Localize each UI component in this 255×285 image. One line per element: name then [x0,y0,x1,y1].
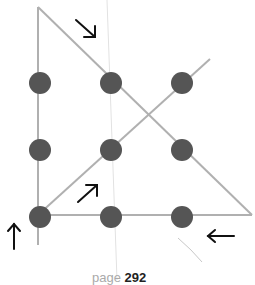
dot [171,72,193,94]
page-caption: page 292 [92,270,146,285]
pencil-mark [178,238,202,262]
arrow-up-icon [8,224,20,249]
dot [29,206,51,228]
arrow-left-icon [208,230,234,242]
dot [100,206,122,228]
dot [171,139,193,161]
dot [29,139,51,161]
caption-page-number: 292 [125,270,147,285]
caption-prefix: page [92,270,125,285]
solution-path [38,7,252,245]
path-segment-diagonal-down [38,7,252,215]
dot [171,206,193,228]
arrow-down-right-icon [76,20,95,37]
dot [100,139,122,161]
dot [100,72,122,94]
dot [29,72,51,94]
arrow-up-right-icon [78,185,97,202]
